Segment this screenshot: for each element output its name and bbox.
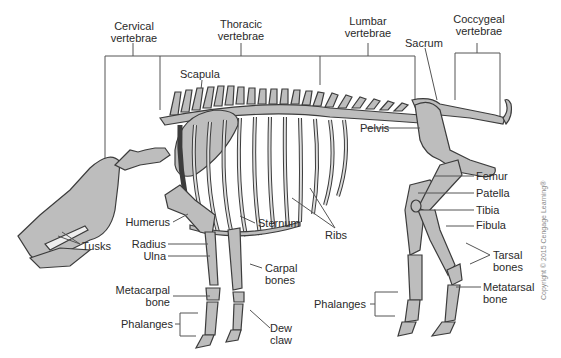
label-line: vertebrae: [449, 25, 509, 37]
label-phalanges-hind: Phalanges: [300, 298, 366, 310]
label-line: Thoracic: [213, 18, 269, 30]
label-phalanges-fore: Phalanges: [105, 318, 173, 330]
label-metatarsal-bone: Metatarsal bone: [483, 281, 534, 305]
label-pelvis: Pelvis: [360, 122, 389, 134]
label-scapula: Scapula: [180, 68, 220, 80]
label-sacrum: Sacrum: [405, 37, 443, 49]
label-line: bones: [493, 261, 523, 273]
label-cervical-vertebrae: Cervical vertebrae: [106, 20, 162, 44]
label-patella: Patella: [476, 187, 510, 199]
label-ribs: Ribs: [325, 229, 347, 241]
label-tibia: Tibia: [476, 204, 499, 216]
label-line: bone: [100, 296, 170, 308]
label-humerus: Humerus: [110, 216, 170, 228]
label-line: bone: [483, 293, 534, 305]
label-carpal-bones: Carpal bones: [265, 262, 297, 286]
label-dew-claw: Dew claw: [270, 322, 292, 346]
label-line: vertebrae: [340, 27, 396, 39]
label-thoracic-vertebrae: Thoracic vertebrae: [213, 18, 269, 42]
label-line: Dew: [270, 322, 292, 334]
label-ulna: Ulna: [110, 250, 166, 262]
label-line: Lumbar: [340, 15, 396, 27]
label-line: Metacarpal: [100, 284, 170, 296]
label-fibula: Fibula: [476, 219, 506, 231]
label-radius: Radius: [110, 238, 166, 250]
label-tarsal-bones: Tarsal bones: [493, 249, 523, 273]
label-coccygeal-vertebrae: Coccygeal vertebrae: [449, 13, 509, 37]
label-line: Metatarsal: [483, 281, 534, 293]
label-line: Carpal: [265, 262, 297, 274]
copyright-notice: Copyright © 2015 Cengage Learning®: [540, 181, 547, 300]
label-line: Coccygeal: [449, 13, 509, 25]
label-femur: Femur: [476, 170, 508, 182]
label-line: bones: [265, 274, 297, 286]
label-tusks: Tusks: [82, 240, 111, 252]
label-line: vertebrae: [106, 32, 162, 44]
label-sternum: Sternum: [258, 217, 300, 229]
label-line: claw: [270, 334, 292, 346]
label-metacarpal-bone: Metacarpal bone: [100, 284, 170, 308]
label-line: Cervical: [106, 20, 162, 32]
label-line: Tarsal: [493, 249, 523, 261]
label-line: vertebrae: [213, 30, 269, 42]
label-lumbar-vertebrae: Lumbar vertebrae: [340, 15, 396, 39]
pig-skeleton-diagram: Cervical vertebrae Thoracic vertebrae Lu…: [0, 0, 561, 358]
